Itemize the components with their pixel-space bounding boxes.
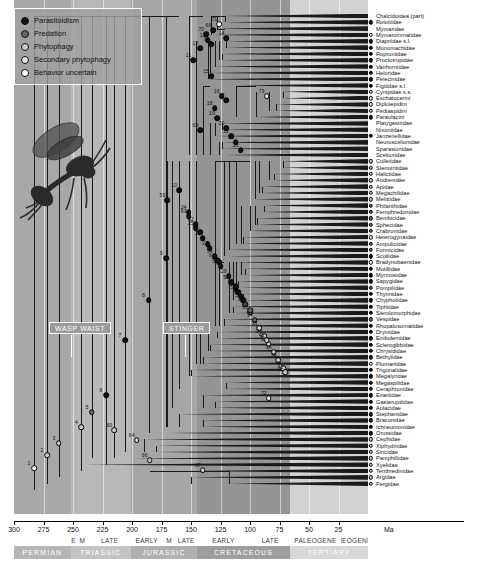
tip-label: Vanhorniidae (376, 64, 409, 70)
tip-label: Xyelidae (376, 462, 398, 468)
internal-node-marker (233, 283, 239, 289)
tip-label: Halictidae (376, 171, 401, 177)
branch-vertical (264, 206, 265, 212)
branch-vertical (34, 16, 35, 490)
internal-node-marker (200, 467, 206, 473)
branch-horizontal (236, 86, 256, 87)
tip-state-marker (368, 317, 372, 321)
tip-label: Ceraphronidae (376, 386, 414, 392)
tip-label: Heterogynaidae (376, 234, 416, 240)
tip-label: Myrmosidae (376, 272, 407, 278)
tip-state-marker (368, 109, 372, 113)
axis-tick (309, 521, 310, 525)
tip-state-marker (368, 216, 372, 220)
internal-node-marker (247, 307, 253, 313)
internal-node-marker (78, 424, 84, 430)
internal-node-marker (217, 21, 223, 27)
node-number: 39 (270, 352, 276, 358)
branch-vertical (257, 218, 258, 224)
node-number: 20 (219, 120, 225, 126)
tip-label: Embolemidae (376, 335, 411, 341)
branch-horizontal (191, 471, 229, 472)
axis-unit-label: Ma (384, 526, 394, 533)
tip-state-marker (368, 418, 372, 422)
tip-label: Chrysididae (376, 348, 406, 354)
tip-label: Vespidae (376, 316, 399, 322)
tip-state-marker (368, 374, 372, 378)
internal-node-marker (176, 187, 182, 193)
internal-node-marker (264, 337, 270, 343)
tip-label: Formicidae (376, 247, 404, 253)
legend-item-secondary-phytophagy: Secondary phytophagy (21, 53, 134, 66)
legend-item-parasitoidism: Parasitoidism (21, 14, 134, 27)
branch-horizontal (189, 16, 196, 17)
tip-state-marker (368, 463, 372, 467)
node-number: 18 (207, 100, 213, 106)
internal-node-marker (112, 427, 118, 433)
tip-state-marker (368, 210, 372, 214)
branch-vertical (166, 16, 167, 256)
tip-label: Sclerogibbidae (376, 342, 414, 348)
node-number: 69 (193, 122, 199, 128)
legend-item-predation: Predation (21, 27, 134, 40)
internal-node-marker (238, 147, 244, 153)
axis-tick-label: 150 (176, 526, 206, 533)
period-cell: PERMIAN (14, 546, 71, 559)
epoch-cell: NEOGENE (341, 535, 368, 546)
branch-vertical (243, 237, 244, 243)
tip-label: Apidae (376, 184, 394, 190)
tip-state-marker (368, 52, 372, 56)
axis-tick-label: 25 (324, 526, 354, 533)
axis-tick (339, 521, 340, 525)
tip-label: Pergidae (376, 481, 399, 487)
tip-state-marker (368, 115, 372, 119)
tip-state-marker (368, 197, 372, 201)
tip-state-marker (368, 444, 372, 448)
internal-node-marker (224, 97, 230, 103)
tip-state-marker (368, 165, 372, 169)
branch-vertical (274, 174, 275, 180)
gridline (191, 0, 192, 514)
axis-tick-label: 300 (0, 526, 29, 533)
branch-vertical (241, 262, 242, 275)
tip-label: Orussidae (376, 430, 402, 436)
internal-node-marker (198, 229, 204, 235)
node-number: 14 (219, 30, 225, 36)
tip-label: Bethylidae (376, 354, 403, 360)
axis-tick-label: 275 (29, 526, 59, 533)
tip-label: Braconidae (376, 417, 405, 423)
tip-state-marker (368, 260, 372, 264)
tip-state-marker (368, 368, 372, 372)
branch-vertical (200, 332, 201, 364)
tip-label: Dryinidae (376, 329, 400, 335)
branch-horizontal (229, 161, 236, 162)
axis-tick-label: 250 (58, 526, 88, 533)
node-number: 5 (85, 404, 88, 410)
branch-vertical (222, 142, 223, 148)
legend: ParasitoidismPredationPhytophagySecondar… (14, 8, 142, 85)
branch-vertical (215, 161, 216, 325)
tip-state-marker (368, 437, 372, 441)
tip-label: Nixoniidae (376, 127, 403, 133)
tip-label: Stephanidae (376, 411, 408, 417)
branch-vertical (215, 41, 216, 66)
tip-label: Mymaridae (376, 26, 404, 32)
tip-label: Eschatocerini (376, 95, 410, 101)
legend-label: Secondary phytophagy (34, 55, 111, 64)
tip-state-marker (368, 159, 372, 163)
node-number: 72 (261, 390, 267, 396)
branch-vertical (236, 86, 237, 118)
node-number: 35 (252, 320, 258, 326)
epoch-cell: LATE (176, 535, 197, 546)
node-number: 23 (233, 142, 239, 148)
internal-node-marker (103, 392, 109, 398)
axis-tick-label: 50 (294, 526, 324, 533)
tip-state-marker (368, 45, 372, 49)
tip-label: Tiphiidae (376, 304, 399, 310)
tip-state-marker (368, 71, 372, 75)
legend-label: Behavior uncertain (34, 68, 97, 77)
internal-node-marker (264, 93, 270, 99)
axis-tick (250, 521, 251, 525)
period-cell: JURASSIC (131, 546, 197, 559)
branch-vertical (203, 86, 204, 156)
